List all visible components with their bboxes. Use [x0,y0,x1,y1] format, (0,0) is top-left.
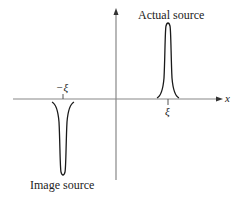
neg-xi-tick-label: −ξ [56,82,68,93]
xi-tick-label: ξ [165,106,170,117]
diagram-canvas [0,0,240,197]
actual-source-label: Actual source [138,9,204,21]
x-axis-label: x [225,93,230,104]
actual-source-peak [157,23,179,98]
image-source-label: Image source [30,179,94,191]
x-axis [13,97,223,102]
image-source-diagram: Actual source Image source x ξ −ξ [0,0,240,197]
image-source-trough [52,102,74,175]
vertical-axis [114,8,119,180]
